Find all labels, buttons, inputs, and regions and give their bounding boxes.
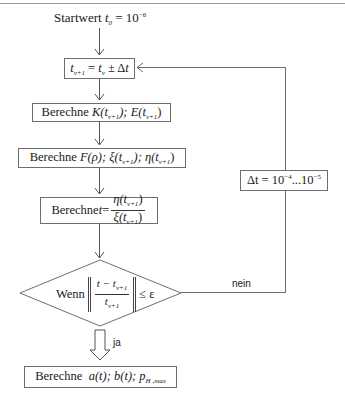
decision-condition: Wenn t − tν+1 tν+1 ≤ ε [56,277,154,312]
t-fraction: η(tν+1) ξ(tν+1) [111,193,144,228]
compute-f-box: Berechne F(ρ); ξ(tν+1); η(tν+1) [18,148,186,168]
yes-label: ja [113,337,121,348]
no-label: nein [232,278,251,289]
compute-t-box: Berechne t = η(tν+1) ξ(tν+1) [40,197,158,224]
step-update-box: tν+1 = tν ± Δt [64,58,135,79]
start-label: Startwert t0 = 10−6 [54,10,146,27]
delta-t-box: Δt = 10−4...10−5 [240,170,328,191]
yes-arrow [90,330,110,360]
result-box: Berechne a(t); b(t); pH ,max [24,366,177,388]
compute-ke-box: Berechne K(tν+1); E(tν+1) [32,103,171,122]
